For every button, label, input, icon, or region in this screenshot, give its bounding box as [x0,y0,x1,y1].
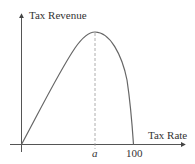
laffer-curve-chart: Tax Revenue Tax Rate a 100 [0,0,195,164]
revenue-curve [22,32,134,145]
x-axis-label: Tax Rate [148,129,187,141]
tick-label-a: a [92,147,98,159]
y-axis-label: Tax Revenue [29,9,87,21]
tick-label-100: 100 [126,147,143,159]
